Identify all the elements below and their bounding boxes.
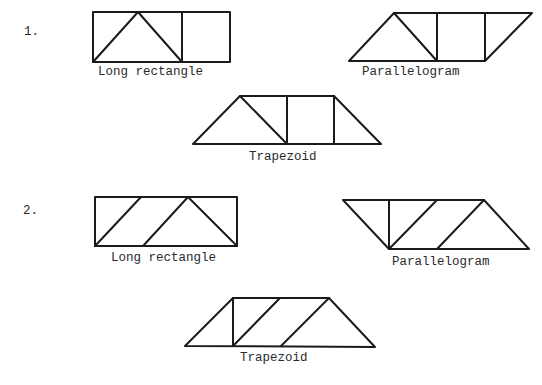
p1-parallelogram-diagonal xyxy=(394,13,437,61)
p1-parallelogram-shape xyxy=(349,13,532,61)
p2-parallelogram-diagonal-1 xyxy=(389,200,437,249)
p1-long-rectangle-shape xyxy=(93,12,230,62)
p2-trapezoid-label: Trapezoid xyxy=(240,352,308,365)
p1-long-rectangle-diagonal-left xyxy=(93,12,138,62)
p2-long-rectangle-label: Long rectangle xyxy=(111,252,216,265)
p2-long-rectangle-diagonal-1 xyxy=(95,197,141,246)
figures-svg xyxy=(0,0,542,385)
p2-parallelogram-diagonal-2 xyxy=(437,200,484,249)
p1-trapezoid-label: Trapezoid xyxy=(249,151,317,164)
p2-trapezoid-diagonal-1 xyxy=(233,298,280,346)
p2-parallelogram-shape xyxy=(343,200,529,249)
p2-long-rectangle-diagonal-2 xyxy=(143,197,188,246)
p1-long-rectangle-diagonal-right xyxy=(138,12,182,62)
p2-long-rectangle-diagonal-3 xyxy=(188,197,237,246)
p1-parallelogram-outline xyxy=(349,13,532,61)
p2-trapezoid-shape xyxy=(185,298,375,347)
p1-parallelogram-label: Parallelogram xyxy=(362,66,460,79)
p2-long-rectangle-shape xyxy=(95,197,237,246)
p1-trapezoid-shape xyxy=(193,96,381,144)
problem-number-1: 1. xyxy=(24,26,39,39)
p2-parallelogram-label: Parallelogram xyxy=(392,256,490,269)
p2-trapezoid-diagonal-2 xyxy=(281,298,329,346)
diagram-canvas: 1. 2. Long rectangle Parallelogram Trape… xyxy=(0,0,542,385)
p1-trapezoid-diagonal xyxy=(240,96,287,144)
p2-trapezoid-outline xyxy=(185,298,375,347)
p1-long-rectangle-outline xyxy=(93,12,230,62)
p2-parallelogram-outline xyxy=(343,200,529,249)
problem-number-2: 2. xyxy=(23,205,38,218)
p1-long-rectangle-label: Long rectangle xyxy=(98,66,203,79)
